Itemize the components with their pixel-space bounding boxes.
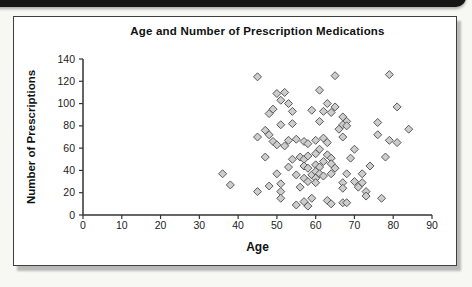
data-point [405, 125, 413, 133]
data-point [273, 90, 281, 98]
data-point [374, 131, 382, 139]
data-point [350, 145, 358, 153]
x-tick-label: 40 [232, 219, 244, 231]
y-tick-label: 20 [63, 186, 75, 198]
data-point [281, 88, 289, 96]
data-point [254, 188, 262, 196]
x-tick-label: 70 [349, 219, 361, 231]
data-point [254, 73, 262, 81]
data-point [385, 71, 393, 79]
y-tick-label: 40 [63, 164, 75, 176]
y-tick-label: 140 [57, 53, 75, 65]
data-point [292, 171, 300, 179]
data-point [323, 100, 331, 108]
data-point [219, 170, 227, 178]
x-tick-label: 30 [193, 219, 205, 231]
x-tick-label: 10 [116, 219, 128, 231]
data-point [385, 136, 393, 144]
data-point [277, 180, 285, 188]
data-point [277, 96, 285, 104]
data-point [285, 163, 293, 171]
data-point [277, 121, 285, 129]
page: Age and Number of Prescription Medicatio… [0, 0, 472, 287]
data-point [226, 181, 234, 189]
y-tick-label: 60 [63, 142, 75, 154]
data-point [381, 153, 389, 161]
data-point [374, 119, 382, 127]
data-point [265, 182, 273, 190]
data-point [292, 135, 300, 143]
x-tick-label: 50 [271, 219, 283, 231]
y-tick-label: 80 [63, 119, 75, 131]
data-point [339, 133, 347, 141]
data-point [319, 107, 327, 115]
data-point [358, 170, 366, 178]
data-point [277, 194, 285, 202]
data-point [393, 103, 401, 111]
data-point [347, 154, 355, 162]
data-point [308, 194, 316, 202]
data-point [308, 106, 316, 114]
data-point [331, 72, 339, 80]
y-tick-label: 0 [69, 209, 75, 221]
x-tick-label: 90 [426, 219, 438, 231]
y-tick-label: 100 [57, 97, 75, 109]
data-point [273, 170, 281, 178]
data-point [288, 120, 296, 128]
data-point [343, 170, 351, 178]
x-tick-label: 0 [80, 219, 86, 231]
data-point [261, 153, 269, 161]
data-point [316, 86, 324, 94]
scatter-plot: 0102030405060708090020406080100120140 [13, 16, 457, 266]
data-point [292, 201, 300, 209]
data-point [316, 117, 324, 125]
data-point [288, 155, 296, 163]
x-tick-label: 60 [310, 219, 322, 231]
data-point [288, 107, 296, 115]
data-point [366, 162, 374, 170]
x-tick-label: 20 [155, 219, 167, 231]
data-point [285, 100, 293, 108]
x-tick-label: 80 [387, 219, 399, 231]
data-point [393, 139, 401, 147]
data-point [378, 194, 386, 202]
data-point [339, 184, 347, 192]
data-point [312, 136, 320, 144]
data-point [296, 183, 304, 191]
top-banner [0, 0, 466, 7]
y-tick-label: 120 [57, 75, 75, 87]
data-point [254, 133, 262, 141]
